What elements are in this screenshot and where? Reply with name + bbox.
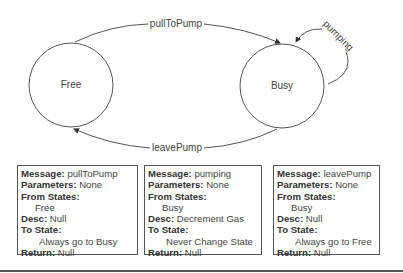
bottom-divider (0, 270, 403, 272)
transition-pulltopump-label: pullToPump (150, 18, 203, 29)
to-state-value: Never Change State (148, 236, 258, 247)
desc-key: Desc: (277, 213, 303, 224)
from-states-value: Busy (277, 202, 376, 213)
return-key: Return: (148, 247, 182, 258)
to-state-key: To State: (21, 224, 61, 235)
message-value: leavePump (323, 168, 371, 179)
message-box-pumping: Message: pumping Parameters: None From S… (144, 165, 262, 255)
parameters-value: None (335, 179, 358, 190)
to-state-value: Always go to Free (277, 236, 376, 247)
desc-value: Null (50, 213, 67, 224)
state-busy-label: Busy (271, 80, 293, 91)
state-free-label: Free (61, 79, 82, 90)
parameters-key: Parameters: (21, 179, 76, 190)
parameters-key: Parameters: (277, 179, 332, 190)
message-value: pumping (194, 168, 231, 179)
message-key: Message: (277, 168, 321, 179)
transition-leavepump: leavePump (74, 129, 277, 153)
return-key: Return: (277, 247, 311, 258)
message-key: Message: (21, 168, 65, 179)
from-states-value: Busy (148, 202, 258, 213)
message-value: pullToPump (67, 168, 117, 179)
to-state-key: To State: (148, 224, 188, 235)
parameters-value: None (206, 179, 229, 190)
state-free: Free (29, 43, 113, 127)
message-key: Message: (148, 168, 192, 179)
message-box-leavepump: Message: leavePump Parameters: None From… (273, 165, 380, 255)
desc-value: Null (306, 213, 323, 224)
from-states-key: From States: (21, 191, 80, 202)
transition-pulltopump: pullToPump (75, 18, 280, 43)
desc-key: Desc: (21, 213, 47, 224)
return-value: Null (185, 247, 202, 258)
transition-leavepump-label: leavePump (152, 142, 202, 153)
state-busy: Busy (240, 44, 324, 128)
to-state-value: Always go to Busy (21, 236, 134, 247)
desc-key: Desc: (148, 213, 174, 224)
parameters-key: Parameters: (148, 179, 203, 190)
from-states-value: Free (21, 202, 134, 213)
message-box-pulltopump: Message: pullToPump Parameters: None Fro… (17, 165, 138, 255)
from-states-key: From States: (277, 191, 336, 202)
return-value: Null (58, 247, 75, 258)
return-value: Null (314, 247, 331, 258)
from-states-key: From States: (148, 191, 207, 202)
transition-pumping-label: pumping (321, 18, 356, 53)
to-state-key: To State: (277, 224, 317, 235)
parameters-value: None (79, 179, 102, 190)
return-key: Return: (21, 247, 55, 258)
desc-value: Decrement Gas (177, 213, 244, 224)
